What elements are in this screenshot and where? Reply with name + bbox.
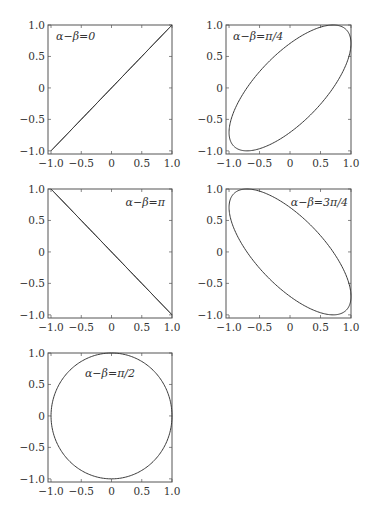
x-tick-label: 0.5 [133, 485, 150, 497]
subplot-1: −1.0−1.0−0.5−0.5000.50.51.01.0α−β=0 [20, 19, 181, 169]
y-tick-label: −0.5 [198, 277, 224, 289]
x-tick-label: 1.0 [343, 157, 360, 169]
lissajous-curve [229, 25, 351, 151]
subplot-4: −1.0−1.0−0.5−0.5000.50.51.01.0α−β=3π/4 [198, 183, 360, 333]
y-tick-label: 0.5 [28, 214, 45, 226]
y-tick-label: −1.0 [20, 145, 46, 157]
x-tick-label: 0.5 [133, 157, 150, 169]
phase-annotation: α−β=π [126, 196, 166, 209]
x-tick-label: −0.5 [69, 485, 95, 497]
x-tick-label: 1.0 [343, 321, 360, 333]
y-tick-label: 0.5 [206, 50, 223, 62]
x-tick-label: −1.0 [216, 321, 242, 333]
x-tick-label: 1.0 [164, 485, 181, 497]
x-tick-label: 0 [108, 485, 115, 497]
lissajous-figure: −1.0−1.0−0.5−0.5000.50.51.01.0α−β=0−1.0−… [0, 0, 373, 510]
phase-annotation: α−β=π/2 [85, 367, 135, 380]
y-tick-label: 0 [38, 246, 45, 258]
y-tick-label: 0 [216, 246, 223, 258]
y-tick-label: 0 [38, 82, 45, 94]
x-tick-label: −1.0 [38, 485, 64, 497]
x-tick-label: 0 [287, 157, 294, 169]
x-tick-label: 0.5 [312, 157, 329, 169]
y-tick-label: 1.0 [28, 347, 45, 359]
y-tick-label: 1.0 [206, 183, 223, 195]
x-tick-label: 0.5 [133, 321, 150, 333]
x-tick-label: −1.0 [216, 157, 242, 169]
y-tick-label: −0.5 [20, 113, 46, 125]
y-tick-label: 0 [38, 410, 45, 422]
y-tick-label: 0.5 [206, 214, 223, 226]
y-tick-label: −0.5 [198, 113, 224, 125]
phase-annotation: α−β=0 [56, 30, 95, 43]
x-tick-label: 1.0 [164, 157, 181, 169]
x-tick-label: −0.5 [247, 321, 273, 333]
x-tick-label: 0 [287, 321, 294, 333]
x-tick-label: −1.0 [38, 157, 64, 169]
phase-annotation: α−β=3π/4 [291, 196, 348, 209]
x-tick-label: 1.0 [164, 321, 181, 333]
x-tick-label: −0.5 [69, 321, 95, 333]
x-tick-label: 0.5 [312, 321, 329, 333]
y-tick-label: 0 [216, 82, 223, 94]
y-tick-label: −1.0 [198, 145, 224, 157]
subplot-5: −1.0−1.0−0.5−0.5000.50.51.01.0α−β=π/2 [20, 347, 181, 497]
y-tick-label: −0.5 [20, 441, 46, 453]
x-tick-label: −1.0 [38, 321, 64, 333]
subplot-3: −1.0−1.0−0.5−0.5000.50.51.01.0α−β=π [20, 183, 181, 333]
y-tick-label: 1.0 [28, 19, 45, 31]
y-tick-label: −1.0 [198, 309, 224, 321]
x-tick-label: 0 [108, 157, 115, 169]
y-tick-label: 1.0 [206, 19, 223, 31]
subplot-2: −1.0−1.0−0.5−0.5000.50.51.01.0α−β=π/4 [198, 19, 360, 169]
lissajous-curve [51, 25, 172, 151]
y-tick-label: 0.5 [28, 378, 45, 390]
y-tick-label: 0.5 [28, 50, 45, 62]
x-tick-label: 0 [108, 321, 115, 333]
y-tick-label: −1.0 [20, 473, 46, 485]
y-tick-label: −0.5 [20, 277, 46, 289]
x-tick-label: −0.5 [247, 157, 273, 169]
y-tick-label: −1.0 [20, 309, 46, 321]
y-tick-label: 1.0 [28, 183, 45, 195]
phase-annotation: α−β=π/4 [233, 30, 283, 43]
x-tick-label: −0.5 [69, 157, 95, 169]
